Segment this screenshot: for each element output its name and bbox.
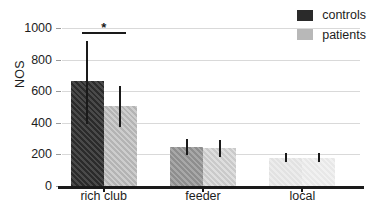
y-tick-label: 200 xyxy=(6,148,52,161)
legend-swatch-patients xyxy=(297,29,313,40)
error-bar-patients-feeder xyxy=(219,140,221,157)
legend-label-controls: controls xyxy=(322,9,366,22)
y-tick-label: 800 xyxy=(6,54,52,67)
x-tick-mark xyxy=(103,188,105,192)
x-tick-mark xyxy=(202,188,204,192)
significance-asterisk: * xyxy=(94,21,114,34)
gridline xyxy=(62,91,360,92)
y-tick-label: 600 xyxy=(6,85,52,98)
y-tick-label: 400 xyxy=(6,117,52,130)
legend-label-patients: patients xyxy=(322,29,366,42)
legend: controls patients xyxy=(297,9,366,48)
y-tick-mark xyxy=(56,91,61,92)
error-bar-controls-feeder xyxy=(186,139,188,155)
y-tick-mark xyxy=(56,60,61,61)
plot-area: * xyxy=(62,28,360,186)
y-tick-mark xyxy=(56,123,61,124)
gridline xyxy=(62,60,360,61)
legend-swatch-controls xyxy=(297,10,313,21)
y-tick-label: 1000 xyxy=(6,22,52,35)
legend-item-controls: controls xyxy=(297,9,366,22)
error-bar-controls-local xyxy=(285,153,287,162)
y-tick-mark xyxy=(56,28,61,29)
y-tick-mark xyxy=(56,154,61,155)
y-tick-label: 0 xyxy=(6,180,52,193)
error-bar-controls-rich-club xyxy=(86,41,88,124)
chart-figure: NOS 02004006008001000 * rich clubfeederl… xyxy=(0,0,374,219)
legend-item-patients: patients xyxy=(297,29,366,42)
error-bar-patients-local xyxy=(318,153,320,163)
x-tick-mark xyxy=(301,188,303,192)
error-bar-patients-rich-club xyxy=(119,86,121,126)
